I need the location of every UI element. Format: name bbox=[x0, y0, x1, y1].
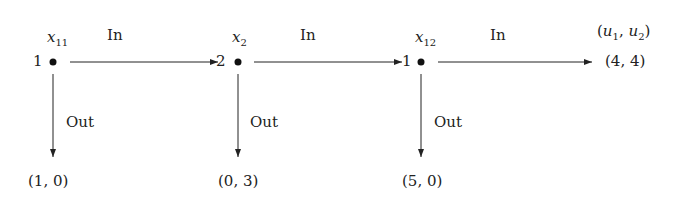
node-x11-dot bbox=[50, 59, 57, 66]
player-label-x12: 1 bbox=[402, 52, 412, 70]
player-label-x2: 2 bbox=[216, 52, 226, 70]
in-label-3: In bbox=[490, 26, 506, 44]
node-x2-label: x2 bbox=[232, 28, 247, 48]
node-x2-dot bbox=[235, 59, 242, 66]
in-label-2: In bbox=[300, 26, 316, 44]
payoff-in-terminal: (4, 4) bbox=[605, 52, 645, 70]
node-x12-dot bbox=[418, 59, 425, 66]
payoff-out-1: (1, 0) bbox=[28, 172, 68, 190]
edges-layer bbox=[0, 0, 699, 211]
node-x12-label: x12 bbox=[415, 28, 436, 48]
payoff-out-3: (5, 0) bbox=[402, 172, 442, 190]
player-label-x11: 1 bbox=[33, 52, 43, 70]
out-label-3: Out bbox=[434, 113, 462, 131]
node-x11-label: x11 bbox=[47, 28, 68, 48]
out-label-2: Out bbox=[250, 113, 278, 131]
payoff-out-2: (0, 3) bbox=[218, 172, 258, 190]
payoff-header-label: (u1, u2) bbox=[597, 22, 650, 42]
out-label-1: Out bbox=[66, 113, 94, 131]
in-label-1: In bbox=[107, 26, 123, 44]
